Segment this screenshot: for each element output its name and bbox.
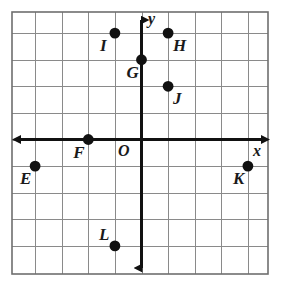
plot-canvas xyxy=(0,0,288,289)
origin-label: O xyxy=(118,143,130,159)
point-label-g: G xyxy=(127,64,139,81)
data-point-l[interactable] xyxy=(110,241,121,252)
point-label-k: K xyxy=(233,170,244,187)
y-axis-label: y xyxy=(148,11,155,27)
data-point-j[interactable] xyxy=(163,81,174,92)
point-label-e: E xyxy=(20,170,31,187)
point-label-h: H xyxy=(173,37,186,54)
coordinate-plane-figure: EFGHIJKL y x O xyxy=(0,0,288,289)
point-label-i: I xyxy=(100,37,107,54)
data-point-i[interactable] xyxy=(110,28,121,39)
data-point-h[interactable] xyxy=(163,28,174,39)
point-label-j: J xyxy=(173,90,182,107)
x-axis-label: x xyxy=(253,143,261,159)
point-label-f: F xyxy=(73,144,84,161)
point-label-l: L xyxy=(99,226,109,243)
